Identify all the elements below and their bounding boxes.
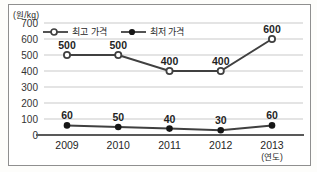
- data-point-marker: [269, 36, 275, 42]
- data-point-label: 50: [112, 111, 124, 123]
- svg-text:500: 500: [21, 50, 38, 61]
- svg-text:400: 400: [21, 66, 38, 77]
- svg-text:100: 100: [21, 114, 38, 125]
- data-point-label: 40: [164, 113, 176, 125]
- data-point-marker: [64, 122, 71, 129]
- svg-text:2010: 2010: [107, 139, 131, 151]
- data-point-label: 400: [212, 55, 230, 67]
- x-tick-labels: 20092010201120122013(연도): [55, 139, 284, 162]
- svg-text:2009: 2009: [55, 139, 79, 151]
- svg-text:2013: 2013: [260, 139, 284, 151]
- price-line-chart: 0100200300400500600700200920102011201220…: [0, 0, 317, 172]
- data-point-marker: [166, 125, 173, 132]
- data-point-marker: [64, 52, 70, 58]
- svg-text:300: 300: [21, 82, 38, 93]
- data-point-marker: [218, 68, 224, 74]
- legend-label-min-price: 최저 가격: [150, 25, 185, 38]
- series-min-price: 6050403060: [61, 109, 278, 133]
- legend-label-max-price: 최고 가격: [72, 25, 107, 38]
- data-point-marker: [115, 52, 121, 58]
- data-point-label: 400: [161, 55, 179, 67]
- x-axis-note: (연도): [261, 152, 283, 162]
- y-tick-labels: 0100200300400500600700: [21, 18, 38, 141]
- data-point-label: 30: [215, 114, 227, 126]
- legend-entry-min-price: 최저 가격: [121, 25, 185, 38]
- data-point-label: 60: [266, 109, 278, 121]
- data-point-label: 500: [58, 39, 76, 51]
- chart-legend: 최고 가격 최저 가격: [43, 25, 184, 38]
- data-point-marker: [217, 127, 224, 134]
- svg-text:200: 200: [21, 98, 38, 109]
- data-point-label: 60: [61, 109, 73, 121]
- svg-text:2012: 2012: [209, 139, 233, 151]
- legend-entry-max-price: 최고 가격: [43, 25, 107, 38]
- data-point-marker: [166, 68, 172, 74]
- filled-circle-marker-icon: [121, 27, 146, 37]
- y-axis-unit-label: (원/kg): [13, 8, 39, 20]
- svg-text:600: 600: [21, 34, 38, 45]
- data-point-marker: [269, 122, 276, 129]
- open-circle-marker-icon: [43, 27, 68, 37]
- svg-text:2011: 2011: [158, 139, 181, 151]
- data-point-marker: [115, 124, 122, 131]
- data-point-label: 500: [109, 39, 127, 51]
- data-point-label: 600: [263, 23, 281, 35]
